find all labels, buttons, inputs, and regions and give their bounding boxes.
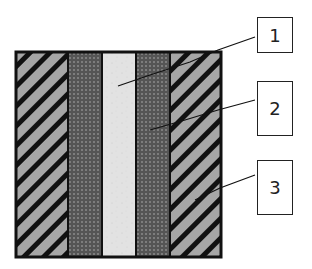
layer-inner-left (68, 52, 102, 257)
layer-outer-right (170, 52, 221, 257)
callout-box-2: 2 (257, 81, 293, 136)
layer-inner-right (136, 52, 170, 257)
callout-label-2: 2 (269, 98, 280, 119)
callout-box-1: 1 (257, 17, 293, 53)
layer-core (102, 52, 136, 257)
callout-label-3: 3 (269, 177, 280, 198)
layer-outer-left (16, 52, 68, 257)
callout-box-3: 3 (257, 160, 293, 215)
callout-label-1: 1 (269, 25, 280, 46)
